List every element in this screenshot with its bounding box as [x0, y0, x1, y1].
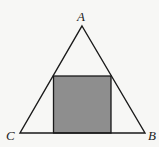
- vertex-label-c: C: [6, 128, 15, 143]
- inscribed-square: [54, 76, 112, 133]
- diagram-canvas: A C B: [0, 0, 159, 147]
- geometry-figure: A C B: [0, 0, 159, 147]
- vertex-label-b: B: [148, 128, 156, 143]
- vertex-label-a: A: [76, 9, 85, 24]
